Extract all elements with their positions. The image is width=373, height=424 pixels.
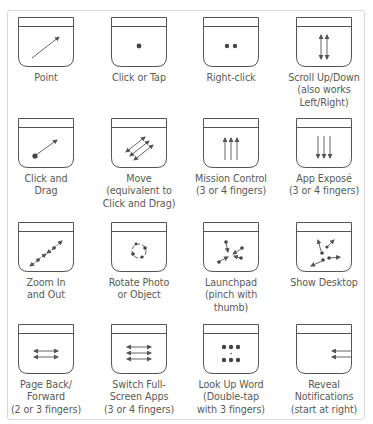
gesture-label: Rotate Photoor Object [89,277,189,302]
gesture-label-line: with 3 fingers) [181,404,281,416]
gesture-label-line: Click and Drag) [89,198,189,210]
gesture-label-line: Scroll Up/Down [274,72,373,84]
gesture-label: Page Back/Forward(2 or 3 fingers) [0,379,96,416]
gesture-label-line: Switch Full- [89,379,189,391]
three-up-arrows-icon [203,118,259,168]
gesture-label-line: Drag [0,185,96,197]
gesture-label-line: Right-click [181,72,281,84]
gesture-label-line: Notifications [274,391,373,403]
gesture-label-line: (start at right) [274,404,373,416]
two-horizontal-double-arrows-icon [18,324,74,374]
dot-with-arrow-icon [18,118,74,168]
gesture-label-line: Click and [0,173,96,185]
spread-outward-icon [296,222,352,272]
gesture-label-line: or Object [89,289,189,301]
gesture-label-line: and Out [0,289,96,301]
gesture-label-line: Forward [0,391,96,403]
gesture-label: Mission Control(3 or 4 fingers) [181,173,281,198]
three-horizontal-double-arrows-icon [111,324,167,374]
gesture-label-line: Show Desktop [274,277,373,289]
gesture-label-line: Zoom In [0,277,96,289]
gesture-label-line: thumb) [181,302,281,314]
three-down-arrows-icon [296,118,352,168]
six-dots-icon [203,324,259,374]
gesture-label: Launchpad(pinch withthumb) [181,277,281,314]
gesture-label-line: Mission Control [181,173,281,185]
gesture-label: Look Up Word(Double-tapwith 3 fingers) [181,379,281,416]
rotate-circle-icon [111,222,167,272]
gesture-label-line: (equivalent to [89,185,189,197]
gesture-label-line: (pinch with [181,289,281,301]
gesture-label-line: (also works [274,84,373,96]
single-dot-icon [111,17,167,67]
gesture-label-line: App Exposé [274,173,373,185]
gesture-label-line: Point [0,72,96,84]
gesture-label-line: (3 or 4 fingers) [181,185,281,197]
gesture-label: RevealNotifications(start at right) [274,379,373,416]
arrow-diagonal-icon [18,17,74,67]
gesture-label: Scroll Up/Down(also worksLeft/Right) [274,72,373,109]
gesture-label-line: (2 or 3 fingers) [0,404,96,416]
gesture-label: App Exposé(3 or 4 fingers) [274,173,373,198]
gesture-label-line: Screen Apps [89,391,189,403]
gesture-label: Switch Full-Screen Apps(3 or 4 fingers) [89,379,189,416]
gesture-label: Move(equivalent toClick and Drag) [89,173,189,210]
gesture-label: Click andDrag [0,173,96,198]
two-vertical-double-arrows-icon [296,17,352,67]
gesture-label: Click or Tap [89,72,189,84]
left-arrows-from-edge-icon [296,324,352,374]
gesture-label-line: Page Back/ [0,379,96,391]
page-title: Multi-Touch gestures for the Magic Track… [0,0,373,1]
pinch-zoom-icon [18,222,74,272]
gesture-label-line: (3 or 4 fingers) [274,185,373,197]
gesture-label-line: Left/Right) [274,97,373,109]
gesture-label-line: Look Up Word [181,379,281,391]
gesture-label-line: Launchpad [181,277,281,289]
gesture-label-line: Click or Tap [89,72,189,84]
gesture-label: Show Desktop [274,277,373,289]
gesture-label-line: (3 or 4 fingers) [89,404,189,416]
gesture-label: Zoom Inand Out [0,277,96,302]
two-dots-icon [203,17,259,67]
three-diagonal-double-arrows-icon [111,118,167,168]
gesture-label: Point [0,72,96,84]
gesture-label-line: Reveal [274,379,373,391]
pinch-inward-icon [203,222,259,272]
gesture-label: Right-click [181,72,281,84]
gesture-label-line: Move [89,173,189,185]
gesture-label-line: Rotate Photo [89,277,189,289]
gesture-label-line: (Double-tap [181,391,281,403]
